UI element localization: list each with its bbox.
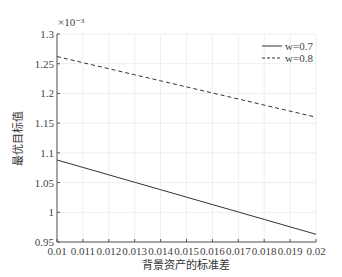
y-tick-label: 1.05 [35, 177, 55, 189]
x-tick-label: 0.016 [200, 245, 225, 257]
y-tick-label: 1.15 [35, 117, 55, 129]
line-chart: 0.010.0110.0120.0130.0140.0150.0160.0170… [0, 0, 342, 277]
x-tick-label: 0.018 [252, 245, 277, 257]
y-multiplier: ×10⁻³ [58, 16, 85, 28]
x-tick-label: 0.017 [226, 245, 251, 257]
y-tick-label: 1.25 [35, 58, 55, 70]
y-tick-labels: 0.9511.051.11.151.21.251.3 [35, 28, 55, 248]
x-tick-label: 0.014 [148, 245, 173, 257]
legend: w=0.7w=0.8 [262, 40, 313, 64]
legend-label: w=0.7 [285, 40, 313, 52]
x-tick-label: 0.015 [174, 245, 199, 257]
x-tick-label: 0.019 [278, 245, 303, 257]
x-axis-label: 背景资产的标准差 [142, 258, 230, 272]
x-tick-label: 0.012 [96, 245, 121, 257]
y-tick-label: 1.2 [40, 87, 54, 99]
x-tick-labels: 0.010.0110.0120.0130.0140.0150.0160.0170… [47, 245, 325, 257]
y-tick-label: 1.1 [40, 147, 54, 159]
grid-lines [57, 34, 316, 242]
x-tick-label: 0.011 [71, 245, 95, 257]
y-axis-label: 最优目标值 [11, 111, 25, 166]
legend-label: w=0.8 [285, 52, 313, 64]
y-tick-label: 0.95 [35, 236, 55, 248]
x-tick-label: 0.02 [306, 245, 325, 257]
y-tick-label: 1 [49, 206, 55, 218]
x-tick-label: 0.013 [122, 245, 147, 257]
y-tick-label: 1.3 [40, 28, 54, 40]
